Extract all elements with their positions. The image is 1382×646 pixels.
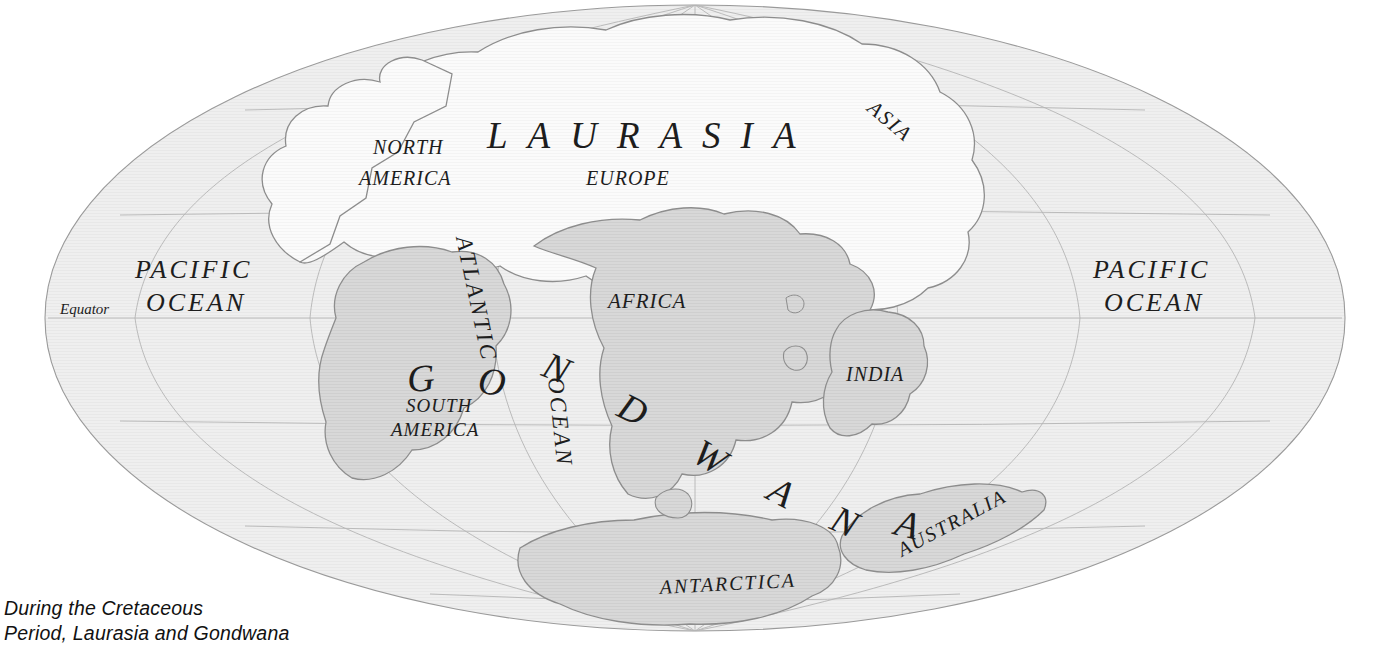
label-gondwana-letter-o: O xyxy=(476,359,508,404)
label-pacific-east-line1: PACIFIC xyxy=(1092,255,1210,284)
label-pacific-west-line1: PACIFIC xyxy=(134,255,252,284)
label-laurasia-text: LAURASIA xyxy=(486,115,816,156)
label-south-america-line1: SOUTH xyxy=(406,395,473,416)
label-pacific-east-line2: OCEAN xyxy=(1104,288,1204,317)
figure-caption: During the Cretaceous Period, Laurasia a… xyxy=(4,596,434,646)
label-north-america-line1: NORTH xyxy=(372,136,444,158)
label-europe: EUROPE xyxy=(585,167,670,189)
label-africa: AFRICA xyxy=(606,289,686,313)
label-laurasia: LAURASIA xyxy=(486,115,816,156)
label-india: INDIA xyxy=(845,363,904,385)
label-pacific-west-line2: OCEAN xyxy=(146,288,246,317)
label-north-america-line2: AMERICA xyxy=(357,167,452,189)
label-gondwana-letter-g: G xyxy=(406,356,436,400)
caption-line-1: During the Cretaceous xyxy=(4,596,434,621)
label-south-america-line2: AMERICA xyxy=(389,419,479,440)
label-equator: Equator xyxy=(59,301,109,317)
caption-line-2: Period, Laurasia and Gondwana xyxy=(4,621,434,646)
